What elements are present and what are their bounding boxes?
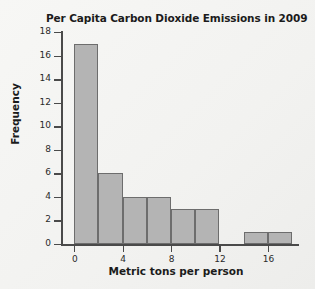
bars-layer (62, 32, 298, 244)
x-tick: 12 (219, 245, 220, 252)
histogram-bar (147, 197, 171, 244)
y-tick-label: 8 (45, 144, 51, 154)
histogram-bar (123, 197, 147, 244)
y-tick-label: 4 (45, 191, 51, 201)
y-tick-label: 12 (40, 97, 51, 107)
x-tick: 4 (123, 245, 124, 252)
y-tick-label: 10 (40, 120, 51, 130)
x-axis-line (61, 244, 299, 246)
y-tick-label: 2 (45, 214, 51, 224)
histogram-bar (268, 232, 292, 244)
x-tick-label: 12 (214, 254, 225, 264)
histogram-figure: Per Capita Carbon Dioxide Emissions in 2… (0, 0, 315, 289)
x-tick-label: 0 (72, 254, 78, 264)
y-tick: 2 (54, 220, 61, 221)
histogram-bar (244, 232, 268, 244)
x-tick-label: 16 (263, 254, 274, 264)
y-tick: 0 (54, 244, 61, 245)
y-tick: 16 (54, 56, 61, 57)
x-axis-label: Metric tons per person (52, 265, 300, 277)
y-tick: 4 (54, 197, 61, 198)
y-tick: 18 (54, 32, 61, 33)
histogram-bar (195, 209, 219, 244)
y-tick-label: 18 (40, 26, 51, 36)
x-tick: 16 (268, 245, 269, 252)
y-axis-label: Frequency (9, 71, 21, 157)
histogram-bar (74, 44, 98, 244)
y-tick: 8 (54, 150, 61, 151)
y-tick-label: 0 (45, 238, 51, 248)
x-tick: 8 (171, 245, 172, 252)
y-tick: 6 (54, 173, 61, 174)
chart-title: Per Capita Carbon Dioxide Emissions in 2… (46, 12, 304, 24)
y-tick-label: 16 (40, 50, 51, 60)
histogram-bar (171, 209, 195, 244)
y-tick: 14 (54, 79, 61, 80)
y-tick: 10 (54, 126, 61, 127)
y-tick-label: 6 (45, 167, 51, 177)
x-tick: 0 (74, 245, 75, 252)
y-tick: 12 (54, 103, 61, 104)
x-tick-label: 8 (169, 254, 175, 264)
y-tick-label: 14 (40, 73, 51, 83)
x-tick-label: 4 (120, 254, 126, 264)
histogram-bar (98, 173, 122, 244)
